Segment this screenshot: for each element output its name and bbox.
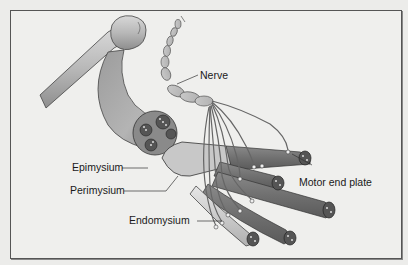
label-motor-end-plate: Motor end plate	[299, 177, 372, 188]
label-epimysium: Epimysium	[72, 162, 123, 173]
muscle-anatomy-illustration	[0, 0, 408, 265]
nerve	[160, 16, 213, 106]
label-endomysium: Endomysium	[129, 215, 190, 226]
bone	[40, 16, 146, 108]
label-nerve: Nerve	[200, 70, 228, 81]
label-perimysium: Perimysium	[70, 185, 125, 196]
